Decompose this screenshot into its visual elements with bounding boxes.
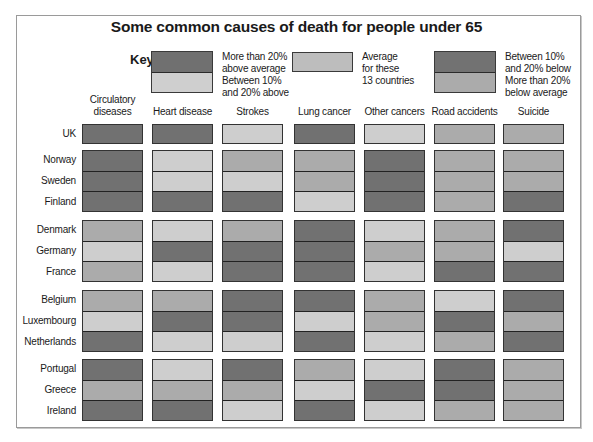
heatmap-cell — [295, 261, 354, 281]
heatmap-cell — [365, 360, 424, 380]
chart-title: Some common causes of death for people u… — [0, 18, 593, 36]
key-swatch-above — [151, 51, 213, 93]
heatmap-cell — [223, 241, 282, 261]
heatmap-cell — [295, 400, 354, 420]
cell-group — [434, 290, 495, 352]
cell-group — [364, 150, 425, 212]
heatmap-cell — [504, 191, 563, 211]
column-header: Heart disease — [148, 106, 218, 118]
heatmap-cell — [295, 171, 354, 191]
heatmap-cell — [435, 261, 494, 281]
key-text-gt20-below: More than 20% below average — [505, 75, 570, 99]
heatmap-cell — [223, 221, 282, 241]
heatmap-cell — [83, 331, 142, 351]
cell-group — [222, 150, 283, 212]
cell-group — [152, 359, 213, 421]
heatmap-cell — [365, 241, 424, 261]
heatmap-cell — [504, 125, 563, 143]
row-label: Sweden — [4, 175, 76, 186]
heatmap-cell — [295, 191, 354, 211]
row-label: France — [4, 266, 76, 277]
cell-group — [503, 359, 564, 421]
cell-group — [294, 150, 355, 212]
cell-group — [364, 359, 425, 421]
cell-group — [503, 220, 564, 282]
heatmap-cell — [223, 380, 282, 400]
heatmap-cell — [435, 380, 494, 400]
heatmap-cell — [153, 171, 212, 191]
heatmap-cell — [83, 360, 142, 380]
heatmap-cell — [153, 191, 212, 211]
heatmap-cell — [435, 311, 494, 331]
heatmap-cell — [365, 380, 424, 400]
row-label: Greece — [4, 384, 76, 395]
heatmap-cell — [153, 241, 212, 261]
heatmap-cell — [504, 360, 563, 380]
heatmap-cell — [223, 191, 282, 211]
heatmap-cell — [153, 311, 212, 331]
heatmap-cell — [365, 191, 424, 211]
column-header: Road accidents — [430, 106, 500, 118]
heatmap-cell — [153, 400, 212, 420]
heatmap-cell — [504, 241, 563, 261]
cell-group — [82, 150, 143, 212]
heatmap-cell — [365, 311, 424, 331]
heatmap-cell — [223, 125, 282, 143]
heatmap-cell — [295, 360, 354, 380]
column-header: Suicide — [499, 106, 569, 118]
heatmap-cell — [295, 311, 354, 331]
key-text-gt20-above: More than 20% above average — [222, 51, 287, 75]
heatmap-cell — [223, 360, 282, 380]
cell-group — [294, 359, 355, 421]
heatmap-cell — [504, 151, 563, 171]
heatmap-cell — [223, 291, 282, 311]
heatmap-cell — [153, 125, 212, 143]
heatmap-cell — [504, 400, 563, 420]
heatmap-cell — [223, 171, 282, 191]
heatmap-cell — [83, 261, 142, 281]
cell-group — [364, 290, 425, 352]
heatmap-cell — [295, 151, 354, 171]
cell-group — [152, 290, 213, 352]
cell-group — [222, 290, 283, 352]
key-swatch-gt20-below — [435, 73, 495, 92]
cell-group — [294, 124, 355, 144]
cell-group — [294, 220, 355, 282]
heatmap-cell — [295, 125, 354, 143]
heatmap-cell — [295, 241, 354, 261]
heatmap-cell — [153, 221, 212, 241]
heatmap-cell — [435, 191, 494, 211]
heatmap-cell — [435, 331, 494, 351]
heatmap-cell — [153, 360, 212, 380]
heatmap-cell — [504, 221, 563, 241]
heatmap-cell — [295, 291, 354, 311]
heatmap-cell — [153, 261, 212, 281]
row-label: Ireland — [4, 405, 76, 416]
key-swatch-below — [434, 51, 496, 93]
heatmap-cell — [435, 171, 494, 191]
row-label: Finland — [4, 196, 76, 207]
column-header: Lung cancer — [290, 106, 360, 118]
heatmap-cell — [435, 221, 494, 241]
heatmap-cell — [83, 400, 142, 420]
cell-group — [152, 124, 213, 144]
column-header: Other cancers — [360, 106, 430, 118]
cell-group — [152, 220, 213, 282]
row-label: Portugal — [4, 363, 76, 374]
heatmap-cell — [365, 331, 424, 351]
cell-group — [364, 220, 425, 282]
row-label: Belgium — [4, 294, 76, 305]
heatmap-cell — [223, 331, 282, 351]
heatmap-cell — [295, 221, 354, 241]
row-label: Luxembourg — [4, 315, 76, 326]
row-label: Denmark — [4, 224, 76, 235]
heatmap-cell — [435, 125, 494, 143]
heatmap-cell — [83, 380, 142, 400]
heatmap-cell — [83, 125, 142, 143]
heatmap-cell — [295, 380, 354, 400]
heatmap-cell — [365, 125, 424, 143]
cell-group — [222, 220, 283, 282]
heatmap-cell — [83, 241, 142, 261]
cell-group — [434, 150, 495, 212]
heatmap-cell — [435, 241, 494, 261]
